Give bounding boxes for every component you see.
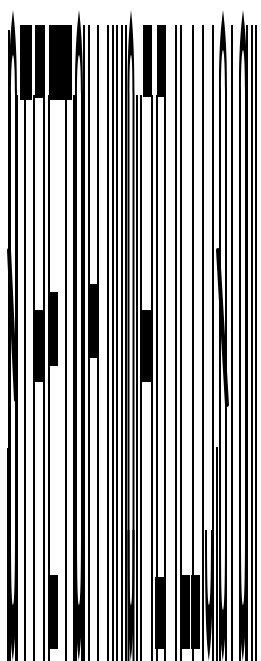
vertical-line — [180, 25, 182, 661]
vertical-line — [216, 447, 218, 661]
vertical-line — [116, 25, 118, 661]
vertical-line — [83, 25, 85, 661]
black-block — [20, 25, 32, 100]
vertical-line — [73, 95, 75, 661]
black-block — [35, 25, 45, 98]
vertical-line — [151, 95, 153, 661]
vertical-line — [255, 25, 257, 661]
black-block — [181, 575, 190, 649]
vertical-line — [175, 25, 177, 661]
vertical-line — [43, 95, 45, 661]
black-block — [48, 575, 58, 649]
black-block — [49, 292, 58, 366]
vertical-line — [140, 95, 142, 661]
vertical-line — [125, 25, 127, 661]
vertical-line — [164, 95, 166, 661]
vertical-line — [192, 25, 194, 661]
vertical-line — [231, 25, 233, 661]
black-block — [157, 25, 166, 97]
black-block — [191, 575, 200, 649]
black-block — [89, 284, 99, 358]
black-block — [143, 25, 152, 97]
black-block — [60, 25, 72, 100]
vertical-line — [65, 95, 67, 661]
abstract-stretched-type-artwork — [0, 0, 261, 661]
vertical-line — [7, 448, 9, 661]
vertical-line — [251, 25, 253, 661]
vertical-line — [24, 95, 26, 661]
vertical-line — [121, 25, 123, 661]
black-block — [142, 310, 151, 382]
black-block — [34, 310, 43, 382]
black-block — [155, 577, 164, 649]
vertical-line — [107, 25, 109, 661]
black-block — [49, 25, 60, 100]
vertical-line — [156, 95, 158, 661]
vertical-line — [112, 25, 114, 661]
vertical-line — [136, 95, 138, 661]
vertical-line — [202, 25, 204, 661]
